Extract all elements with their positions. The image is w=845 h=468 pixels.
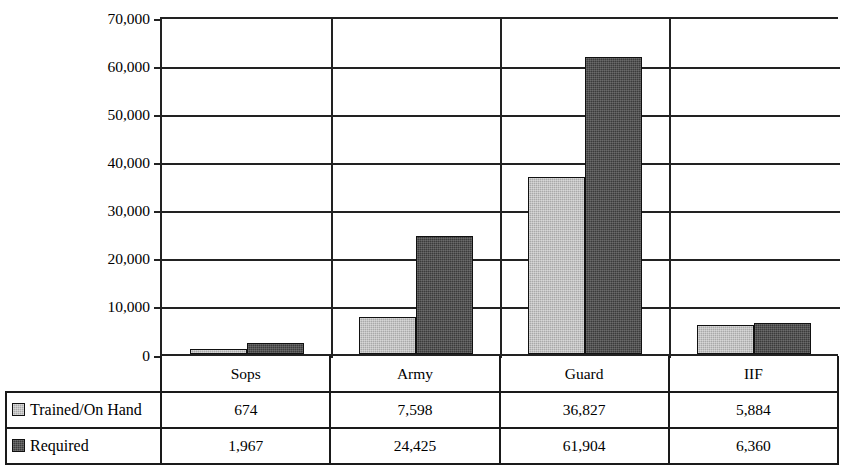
ytick-label: 60,000	[107, 58, 150, 76]
cell-trained-army: 7,598	[330, 392, 499, 428]
cell-required-guard: 61,904	[500, 428, 669, 464]
ytick-mark	[154, 115, 162, 117]
table-corner-cell	[6, 356, 161, 392]
legend-item-trained[interactable]: Trained/On Hand	[6, 392, 161, 428]
ytick-label: 50,000	[107, 106, 150, 124]
ytick-mark	[154, 67, 162, 69]
bar-group-guard	[500, 17, 669, 354]
legend-item-required[interactable]: Required	[6, 428, 161, 464]
legend-label-required: Required	[30, 437, 89, 454]
ytick-mark	[154, 19, 162, 21]
bar-iif-trained[interactable]	[697, 325, 754, 354]
legend-swatch-icon	[12, 403, 25, 416]
category-header-iif: IIF	[669, 356, 838, 392]
cell-required-iif: 6,360	[669, 428, 838, 464]
bar-army-required[interactable]	[416, 236, 473, 354]
legend-swatch-icon	[12, 439, 25, 452]
table-row-categories: Sops Army Guard IIF	[6, 356, 838, 392]
cell-trained-iif: 5,884	[669, 392, 838, 428]
ytick-label: 20,000	[107, 250, 150, 268]
ytick-label: 10,000	[107, 298, 150, 316]
plot-area: 70,000 60,000 50,000 40,000 30,000	[160, 17, 838, 356]
bar-iif-required[interactable]	[754, 323, 811, 354]
ytick-label: 40,000	[107, 154, 150, 172]
bar-group-army	[331, 17, 500, 354]
cell-required-army: 24,425	[330, 428, 499, 464]
cell-required-sops: 1,967	[161, 428, 330, 464]
table-row: Trained/On Hand 674 7,598 36,827 5,884	[6, 392, 838, 428]
bar-guard-trained[interactable]	[528, 177, 585, 354]
category-header-army: Army	[330, 356, 499, 392]
bar-army-trained[interactable]	[359, 317, 416, 354]
cell-trained-guard: 36,827	[500, 392, 669, 428]
ytick-label: 30,000	[107, 202, 150, 220]
bar-chart: 70,000 60,000 50,000 40,000 30,000	[0, 0, 845, 358]
category-header-guard: Guard	[500, 356, 669, 392]
data-table: Sops Army Guard IIF Trained/On Hand 674 …	[5, 356, 839, 465]
table-row: Required 1,967 24,425 61,904 6,360	[6, 428, 838, 464]
ytick-mark	[154, 307, 162, 309]
bar-sops-trained[interactable]	[190, 349, 247, 354]
ytick-mark	[154, 163, 162, 165]
cell-trained-sops: 674	[161, 392, 330, 428]
ytick-mark	[154, 259, 162, 261]
ytick-label: 70,000	[107, 10, 150, 28]
bar-group-iif	[669, 17, 838, 354]
chart-page: 70,000 60,000 50,000 40,000 30,000	[0, 0, 845, 468]
bar-sops-required[interactable]	[247, 343, 304, 354]
legend-label-trained: Trained/On Hand	[30, 401, 142, 418]
ytick-mark	[154, 211, 162, 213]
bar-guard-required[interactable]	[585, 57, 642, 354]
bar-group-sops	[162, 17, 331, 354]
category-header-sops: Sops	[161, 356, 330, 392]
